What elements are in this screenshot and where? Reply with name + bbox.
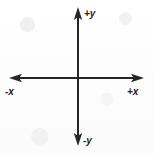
axis-label-negative-x: -x xyxy=(5,87,14,97)
axis-label-negative-y: -y xyxy=(83,136,92,146)
axis-label-positive-y: +y xyxy=(84,9,95,19)
coordinate-axes-graphic xyxy=(0,0,153,155)
diagram-canvas: +y -y -x +x xyxy=(0,0,153,155)
axis-label-positive-x: +x xyxy=(127,87,138,97)
